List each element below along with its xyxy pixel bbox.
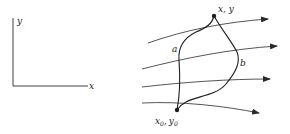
flow-line-2	[142, 46, 277, 69]
flow-line-4	[142, 103, 259, 113]
flow-line-3	[142, 79, 270, 87]
x-axis-label: x	[89, 81, 94, 91]
path-b	[177, 16, 238, 110]
start-point-marker	[175, 108, 179, 112]
end-point-marker	[212, 14, 216, 18]
coordinate-axes: y x	[13, 16, 94, 91]
start-y-subscript: 0	[174, 120, 178, 127]
path-a	[177, 16, 214, 110]
y-axis-label: y	[16, 16, 23, 26]
end-point-label: x, y	[218, 4, 235, 14]
path-a-label: a	[172, 44, 177, 54]
start-separator: ,	[164, 116, 167, 126]
path-b-label: b	[240, 58, 246, 68]
diagram-canvas: y x x, y a b x0,y0	[0, 0, 290, 134]
flow-lines	[142, 19, 277, 113]
flow-line-1	[148, 19, 268, 43]
start-point-label: x0,y0	[155, 116, 178, 127]
